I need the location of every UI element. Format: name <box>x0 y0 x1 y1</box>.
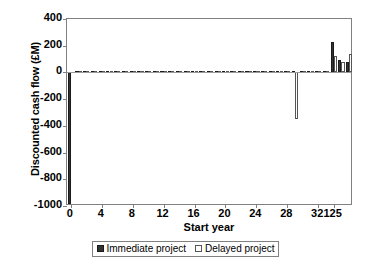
x-tick-label: 12 <box>146 207 180 220</box>
bar-delayed <box>295 72 298 119</box>
bar-immediate <box>68 72 71 204</box>
legend-label: Delayed project <box>205 243 274 254</box>
x-tick-label: 8 <box>115 207 149 220</box>
x-tick-label: 24 <box>238 207 272 220</box>
x-tick-label: 4 <box>84 207 118 220</box>
y-tick-label: -600 <box>26 146 62 157</box>
x-tick-label: 16 <box>177 207 211 220</box>
zero-baseline <box>67 72 351 73</box>
chart-legend: Immediate projectDelayed project <box>92 241 280 257</box>
legend-swatch-icon <box>195 245 202 252</box>
bars-layer <box>67 19 351 204</box>
y-tick-label: 0 <box>26 65 62 76</box>
plot-area <box>66 18 352 205</box>
x-tick-label: 0 <box>53 207 87 220</box>
x-tick-label: 20 <box>207 207 241 220</box>
x-tick-label: 28 <box>269 207 303 220</box>
y-tick-mark <box>63 99 67 100</box>
y-tick-label: -400 <box>26 119 62 130</box>
y-tick-label: 400 <box>26 12 62 23</box>
bar-delayed <box>341 62 344 73</box>
y-tick-mark <box>63 19 67 20</box>
discounted-cash-flow-chart: Discounted cash flow (£M) 4002000-200-40… <box>0 0 371 269</box>
legend-entry: Immediate project <box>97 243 186 254</box>
y-tick-label: -800 <box>26 172 62 183</box>
y-tick-mark <box>63 153 67 154</box>
legend-label: Immediate project <box>107 243 186 254</box>
y-tick-mark <box>63 179 67 180</box>
legend-entry: Delayed project <box>195 243 274 254</box>
x-tick-label: 125 <box>316 207 350 220</box>
bar-delayed <box>334 56 337 73</box>
y-tick-mark <box>63 126 67 127</box>
y-tick-mark <box>63 46 67 47</box>
bar-delayed <box>349 54 352 72</box>
y-tick-label: 200 <box>26 39 62 50</box>
y-tick-label: -200 <box>26 92 62 103</box>
legend-swatch-icon <box>97 245 104 252</box>
y-axis-tick-labels: 4002000-200-400-600-800-1000 <box>26 0 62 269</box>
x-axis-title: Start year <box>66 221 352 233</box>
